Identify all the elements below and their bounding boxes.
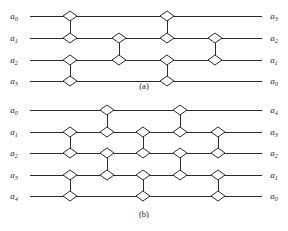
comparator-node-b-4-bottom[interactable] [136,148,150,158]
comparator-node-a-5-bottom[interactable] [208,55,222,65]
comparator-node-b-2-top[interactable] [100,105,114,115]
comparator-node-b-8-bottom[interactable] [211,148,225,158]
comparator-node-a-3-top[interactable] [160,11,174,21]
comparator-node-a-4-bottom[interactable] [160,76,174,86]
input-label-a-2: a2 [10,55,18,66]
panel-a: a0a3a1a2a2a1a3a0(a) [10,11,279,91]
comparator-node-b-0-bottom[interactable] [63,148,77,158]
input-label-a-0: a0 [10,11,19,22]
caption-a: (a) [139,81,149,91]
input-label-b-4: a4 [10,191,18,202]
output-label-b-1: a3 [270,127,278,138]
comparator-node-b-9-top[interactable] [211,170,225,180]
input-label-a-1: a1 [10,33,18,44]
figure-container: a0a3a1a2a2a1a3a0(a)a0a4a1a3a2a2a3a1a4a0(… [0,0,288,231]
comparator-node-b-9-bottom[interactable] [211,191,225,201]
output-label-b-2: a2 [270,148,278,159]
comparator-node-b-3-top[interactable] [100,148,114,158]
comparator-node-b-5-top[interactable] [136,170,150,180]
comparator-node-b-0-top[interactable] [63,127,77,137]
comparator-node-b-3-bottom[interactable] [100,170,114,180]
output-label-a-3: a0 [270,76,279,87]
comparator-node-b-8-top[interactable] [211,127,225,137]
caption-b: (b) [139,209,149,219]
comparator-node-b-6-bottom[interactable] [173,127,187,137]
sorting-network-figure: a0a3a1a2a2a1a3a0(a)a0a4a1a3a2a2a3a1a4a0(… [0,0,288,231]
comparator-node-a-3-bottom[interactable] [160,33,174,43]
input-label-b-2: a2 [10,148,18,159]
input-label-b-1: a1 [10,127,18,138]
comparator-node-a-2-bottom[interactable] [112,55,126,65]
output-label-b-0: a4 [270,105,278,116]
panel-b: a0a4a1a3a2a2a3a1a4a0(b) [10,105,279,219]
comparator-node-a-0-top[interactable] [63,11,77,21]
comparator-node-b-1-bottom[interactable] [63,191,77,201]
comparator-node-b-7-bottom[interactable] [173,170,187,180]
comparator-node-b-1-top[interactable] [63,170,77,180]
comparator-node-b-5-bottom[interactable] [136,191,150,201]
comparator-node-b-6-top[interactable] [173,105,187,115]
comparator-node-a-1-top[interactable] [63,55,77,65]
comparator-node-a-5-top[interactable] [208,33,222,43]
comparator-node-b-4-top[interactable] [136,127,150,137]
input-label-b-3: a3 [10,170,18,181]
comparator-node-a-0-bottom[interactable] [63,33,77,43]
output-label-a-0: a3 [270,11,278,22]
output-label-b-4: a0 [270,191,279,202]
comparator-node-b-2-bottom[interactable] [100,127,114,137]
comparator-node-a-1-bottom[interactable] [63,76,77,86]
output-label-a-2: a1 [270,55,278,66]
input-label-a-3: a3 [10,76,18,87]
comparator-node-a-4-top[interactable] [160,55,174,65]
comparator-node-b-7-top[interactable] [173,148,187,158]
output-label-a-1: a2 [270,33,278,44]
input-label-b-0: a0 [10,105,19,116]
comparator-node-a-2-top[interactable] [112,33,126,43]
output-label-b-3: a1 [270,170,278,181]
